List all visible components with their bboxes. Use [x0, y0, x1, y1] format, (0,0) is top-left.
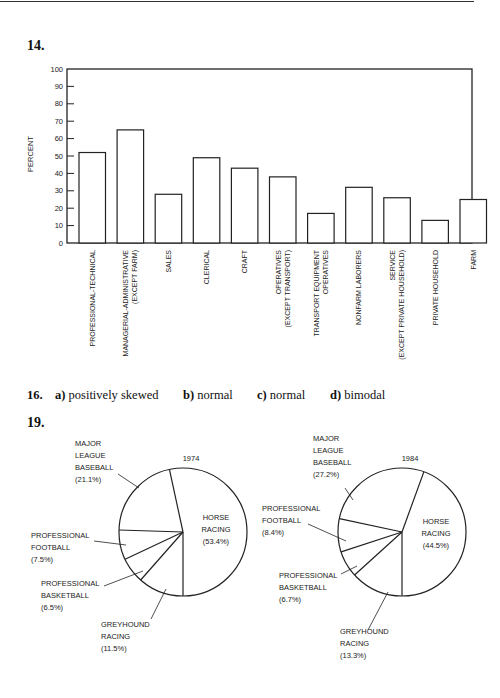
pie-slice-label-line: BASKETBALL — [41, 591, 89, 600]
pie-slice-label-line: BASEBALL — [313, 458, 351, 467]
pie-slice-label: GREYHOUNDRACING(13.3%) — [340, 592, 389, 660]
pie-slice-label-line: RACING — [340, 639, 369, 648]
pie-slice-label-line: PROFESSIONAL — [41, 579, 99, 588]
pie-slice-label-line: (21.1%) — [75, 475, 102, 484]
pie-slice-label-line: RACING — [201, 525, 230, 534]
pie-slice-label-line: (6.7%) — [279, 595, 302, 604]
pie-slice-label-line: GREYHOUND — [101, 620, 150, 629]
pie-slice-label-line: MAJOR — [313, 434, 340, 443]
pie-label-leader-line — [104, 571, 143, 586]
pie-slice-label: MAJORLEAGUEBASEBALL(21.1%) — [75, 439, 139, 488]
pie-slice-label-line: HORSE — [423, 517, 450, 526]
pie-slice-label: MAJORLEAGUEBASEBALL(27.2%) — [313, 434, 353, 500]
pie-slice-label: PROFESSIONALBASKETBALL(6.7%) — [279, 566, 357, 604]
pie-title-year: 1974 — [183, 454, 200, 463]
pie-charts-spectator-sports: 1974HORSERACING(53.4%)GREYHOUNDRACING(11… — [0, 0, 500, 698]
pie-slice-label-line: (13.3%) — [340, 651, 367, 660]
pie-slice-label-line: (53.4%) — [203, 537, 230, 546]
pie-slice-label-line: BASKETBALL — [279, 583, 327, 592]
pie-slice-label: HORSERACING(53.4%) — [201, 513, 230, 546]
pie-slice-label-line: (6.5%) — [41, 603, 64, 612]
pie-slice-label-line: LEAGUE — [313, 446, 343, 455]
pie-slice-label-line: FOOTBALL — [262, 516, 301, 525]
pie-slice-label-line: (27.2%) — [313, 470, 340, 479]
pie-slice-label-line: (11.5%) — [101, 644, 127, 653]
pie-slice-label: GREYHOUNDRACING(11.5%) — [101, 589, 166, 653]
pie-slice-label: PROFESSIONALFOOTBALL(7.5%) — [31, 531, 126, 564]
pie-slice-label-line: GREYHOUND — [340, 627, 389, 636]
pie-slice-label: HORSERACING(44.5%) — [421, 517, 450, 550]
pie-slice-label: PROFESSIONALBASKETBALL(6.5%) — [41, 571, 143, 612]
pie-slice-label-line: PROFESSIONAL — [279, 571, 337, 580]
pie-slice-label-line: PROFESSIONAL — [31, 531, 89, 540]
pie-slice-label-line: HORSE — [203, 513, 230, 522]
pie-slice-label-line: PROFESSIONAL — [262, 504, 320, 513]
pie-label-leader-line — [368, 592, 388, 630]
pie-label-leader-line — [151, 589, 166, 619]
pie-chart-1984: 1984HORSERACING(44.5%)GREYHOUNDRACING(13… — [262, 434, 466, 660]
pie-slice-label: PROFESSIONALFOOTBALL(8.4%) — [262, 504, 346, 541]
pie-slice-label-line: RACING — [101, 632, 130, 641]
pie-title-year: 1984 — [402, 454, 419, 463]
pie-slice-label-line: LEAGUE — [75, 451, 105, 460]
pie-chart-1974: 1974HORSERACING(53.4%)GREYHOUNDRACING(11… — [31, 439, 247, 653]
pie-label-leader-line — [118, 474, 139, 488]
pie-slice-label-line: (8.4%) — [262, 528, 285, 537]
pie-slice-label-line: FOOTBALL — [31, 543, 70, 552]
pie-slice-label-line: MAJOR — [75, 439, 102, 448]
pie-slice-label-line: BASEBALL — [75, 463, 113, 472]
pie-slice-label-line: (44.5%) — [423, 541, 450, 550]
pie-slice-label-line: RACING — [421, 529, 450, 538]
pie-slice-label-line: (7.5%) — [31, 555, 54, 564]
